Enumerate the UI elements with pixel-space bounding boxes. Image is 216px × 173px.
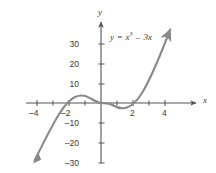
x-tick-label-2: 2 bbox=[130, 108, 135, 118]
y-tick-label-20: 20 bbox=[59, 59, 79, 69]
x-tick-label-4: 4 bbox=[162, 108, 167, 118]
y-tick-label-10: 10 bbox=[59, 79, 79, 89]
y-axis bbox=[99, 22, 105, 163]
y-tick-label-neg30: –30 bbox=[55, 158, 79, 168]
equation-exponent: 3 bbox=[130, 31, 133, 37]
y-tick-label-neg10: –10 bbox=[55, 118, 79, 128]
x-axis-label: x bbox=[203, 95, 207, 105]
x-tick-label-neg2: –2 bbox=[61, 108, 70, 118]
x-tick-label-neg4: –4 bbox=[29, 108, 38, 118]
plot-area bbox=[0, 0, 216, 173]
equation-equals: = bbox=[116, 32, 123, 42]
equation-lhs: y bbox=[110, 32, 114, 42]
y-axis-label: y bbox=[98, 7, 102, 17]
cubic-function-graph: 30 20 10 –10 –20 –30 –4 –2 2 4 y x y = x… bbox=[0, 0, 216, 173]
y-tick-label-30: 30 bbox=[59, 39, 79, 49]
y-tick-label-neg20: –20 bbox=[55, 138, 79, 148]
equation-term: 3x bbox=[144, 32, 153, 42]
equation-minus: – bbox=[135, 32, 142, 42]
equation-annotation: y = x3 – 3x bbox=[110, 31, 152, 42]
